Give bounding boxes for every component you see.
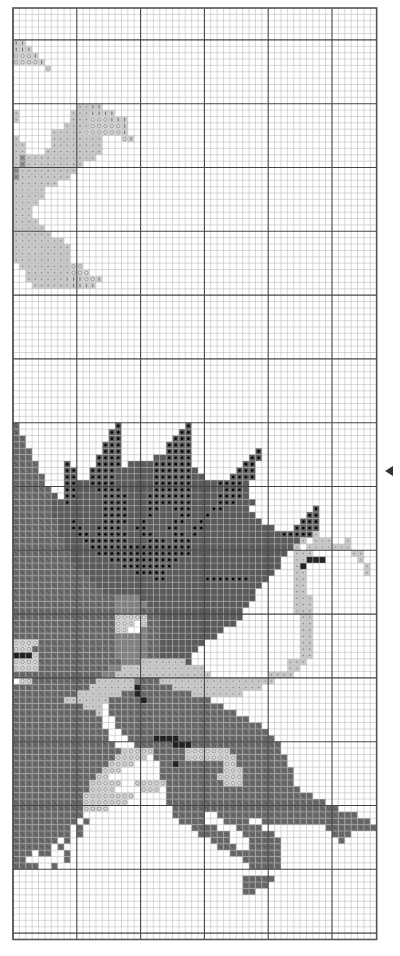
stitch-cell-dark-gray-solid [109, 576, 115, 582]
stitch-cell-light-gray-cross [300, 633, 306, 639]
stitch-cell-dark-gray-hatched [51, 799, 57, 805]
stitch-cell-dark-gray-solid [192, 614, 198, 620]
stitch-cell-dark-gray-hatched [83, 614, 89, 620]
stitch-cell-dark-gray-dot [102, 442, 108, 448]
stitch-cell-dark-gray-hatched [64, 691, 70, 697]
stitch-cell-dark-gray-hatched [306, 818, 312, 824]
stitch-cell-dark-gray-solid [115, 474, 121, 480]
stitch-cell-dark-gray-hatched [198, 812, 204, 818]
stitch-cell-dark-gray-hatched [230, 806, 236, 812]
stitch-cell-dark-gray-hatched [26, 812, 32, 818]
stitch-cell-dark-gray-hatched [211, 786, 217, 792]
stitch-cell-dark-gray-hatched [96, 665, 102, 671]
stitch-cell-dark-gray-hatched [70, 646, 76, 652]
stitch-cell-dark-gray-solid [224, 544, 230, 550]
stitch-cell-dark-gray-dot [102, 512, 108, 518]
stitch-cell-light-gray-circle [134, 780, 140, 786]
stitch-cell-dark-gray-hatched [19, 793, 25, 799]
stitch-cell-light-gray-cross [313, 544, 319, 550]
stitch-cell-dark-gray-hatched [70, 582, 76, 588]
stitch-cell-light-gray-cross [51, 263, 57, 269]
stitch-cell-dark-gray-hatched [32, 799, 38, 805]
stitch-cell-dark-gray-hatched [19, 601, 25, 607]
stitch-cell-dark-gray-dot [306, 512, 312, 518]
stitch-cell-dark-gray-hatched [39, 608, 45, 614]
stitch-cell-dark-gray-solid [90, 531, 96, 537]
stitch-cell-dark-gray-hatched [192, 780, 198, 786]
stitch-cell-black [160, 735, 166, 741]
stitch-cell-dark-gray-hatched [58, 729, 64, 735]
stitch-cell-dark-gray-hatched [19, 735, 25, 741]
stitch-cell-dark-gray-hatched [77, 742, 83, 748]
stitch-cell-dark-gray-hatched [13, 697, 19, 703]
stitch-cell-black [153, 735, 159, 741]
stitch-cell-dark-gray-hatched [268, 863, 274, 869]
stitch-cell-light-gray-cross [45, 276, 51, 282]
stitch-cell-dark-gray-solid [243, 506, 249, 512]
stitch-cell-dark-gray-hatched [83, 735, 89, 741]
stitch-cell-dark-gray-solid [70, 557, 76, 563]
stitch-cell-dark-gray-hatched [90, 633, 96, 639]
stitch-cell-dark-gray-hatched [70, 818, 76, 824]
stitch-cell-light-gray-cross [58, 238, 64, 244]
stitch-cell-dark-gray-dot [217, 506, 223, 512]
stitch-cell-dark-gray-dot [160, 499, 166, 505]
stitch-cell-dark-gray-hatched [19, 672, 25, 678]
stitch-cell-dark-gray-hatched [77, 646, 83, 652]
stitch-cell-dark-gray-hatched [102, 608, 108, 614]
stitch-cell-dark-gray-solid [236, 544, 242, 550]
stitch-cell-light-gray-bar [96, 104, 102, 110]
stitch-cell-dark-gray-hatched [70, 665, 76, 671]
stitch-cell-dark-gray-hatched [70, 812, 76, 818]
stitch-cell-dark-gray-solid [243, 493, 249, 499]
stitch-cell-dark-gray-dot [249, 461, 255, 467]
stitch-cell-dark-gray-hatched [19, 582, 25, 588]
stitch-cell-dark-gray-dot [141, 531, 147, 537]
stitch-cell-light-gray-cross [70, 129, 76, 135]
stitch-cell-dark-gray-hatched [70, 710, 76, 716]
stitch-cell-dark-gray-hatched [141, 691, 147, 697]
stitch-cell-dark-gray-hatched [255, 735, 261, 741]
stitch-cell-dark-gray-hatched [51, 525, 57, 531]
stitch-cell-dark-gray-hatched [32, 569, 38, 575]
stitch-cell-dark-gray-hatched [51, 665, 57, 671]
stitch-cell-dark-gray-hatched [217, 729, 223, 735]
stitch-cell-dark-gray-hatched [51, 678, 57, 684]
stitch-cell-dark-gray-solid [192, 633, 198, 639]
stitch-cell-dark-gray-solid [166, 538, 172, 544]
stitch-cell-light-gray-cross [26, 231, 32, 237]
stitch-cell-dark-gray-hatched [224, 844, 230, 850]
stitch-cell-dark-gray-hatched [64, 742, 70, 748]
stitch-cell-dark-gray-dot [147, 544, 153, 550]
stitch-cell-light-gray-cross [287, 659, 293, 665]
stitch-cell-dark-gray-hatched [179, 723, 185, 729]
stitch-cell-medium-gray [134, 608, 140, 614]
stitch-cell-dark-gray-hatched [109, 595, 115, 601]
stitch-cell-dark-gray-dot [173, 538, 179, 544]
stitch-cell-medium-gray [134, 633, 140, 639]
stitch-cell-dark-gray-hatched [358, 818, 364, 824]
stitch-cell-dark-gray-hatched [51, 538, 57, 544]
stitch-cell-light-gray-circle [19, 665, 25, 671]
stitch-cell-dark-gray-solid [160, 589, 166, 595]
stitch-cell-light-gray-circle [128, 754, 134, 760]
stitch-cell-dark-gray-dot [166, 480, 172, 486]
stitch-cell-dark-gray-hatched [166, 786, 172, 792]
stitch-cell-dark-gray-hatched [217, 806, 223, 812]
stitch-cell-light-gray-circle [90, 806, 96, 812]
stitch-cell-dark-gray-solid [134, 493, 140, 499]
stitch-cell-dark-gray-hatched [249, 780, 255, 786]
stitch-cell-light-gray-cross [160, 678, 166, 684]
stitch-cell-light-gray-circle [90, 116, 96, 122]
stitch-cell-dark-gray-hatched [147, 729, 153, 735]
stitch-cell-dark-gray-solid [275, 544, 281, 550]
stitch-cell-dark-gray-solid [128, 582, 134, 588]
stitch-cell-light-gray-cross [51, 168, 57, 174]
stitch-cell-dark-gray-hatched [166, 761, 172, 767]
stitch-cell-dark-gray-dot [115, 448, 121, 454]
stitch-cell-dark-gray-hatched [13, 582, 19, 588]
stitch-cell-dark-gray-hatched [230, 729, 236, 735]
stitch-cell-dark-gray-dot [109, 474, 115, 480]
stitch-cell-dark-gray-hatched [90, 729, 96, 735]
stitch-cell-medium-gray [109, 672, 115, 678]
